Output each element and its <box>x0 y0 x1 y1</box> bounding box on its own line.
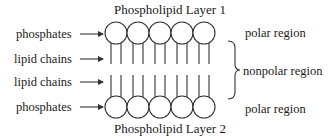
layer-1-heads <box>105 22 215 44</box>
bilayer-diagram <box>0 0 332 137</box>
layer-2-heads <box>105 96 215 118</box>
layer-2-tails <box>111 75 209 97</box>
phosphate-head <box>127 22 149 44</box>
phosphate-head <box>171 22 193 44</box>
phosphate-head <box>105 96 127 118</box>
phosphate-head <box>193 22 215 44</box>
layer-1-tails <box>111 43 209 64</box>
phosphate-head <box>171 96 193 118</box>
phosphate-head <box>105 22 127 44</box>
nonpolar-brace <box>228 41 240 99</box>
phosphate-head <box>193 96 215 118</box>
phosphate-head <box>127 96 149 118</box>
phosphate-head <box>149 96 171 118</box>
phosphate-head <box>149 22 171 44</box>
